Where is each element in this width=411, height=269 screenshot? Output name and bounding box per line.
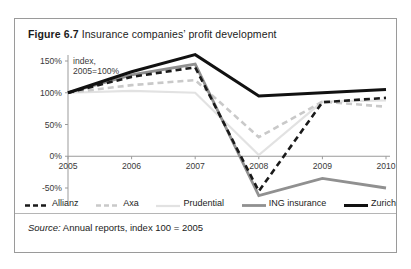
legend-swatch-allianz [25,194,49,212]
legend-item-prudential[interactable]: Prudential [156,194,224,212]
legend-swatch-prudential [156,194,180,212]
legend-swatch-ing [242,194,266,212]
legend-label-allianz: Allianz [52,198,79,208]
figure-title: Figure 6.7 Insurance companies’ profit d… [28,28,277,40]
legend-item-axa[interactable]: Axa [96,194,139,212]
source-note: Source: Annual reports, index 100 = 2005 [28,222,203,233]
legend-label-axa: Axa [123,198,139,208]
figure-title-text: Insurance companies’ profit development [82,28,277,40]
legend-swatch-zurich [344,194,368,212]
x-axis-tick-label: 2007 [186,161,205,171]
y-axis-title: index, [73,56,96,66]
legend-label-zurich: Zurich [371,198,396,208]
legend-label-prudential: Prudential [183,198,224,208]
y-axis-title-line2: 2005=100% [73,66,119,76]
y-axis-tick-label: 0% [50,151,63,161]
x-axis-tick-label: 2009 [313,161,332,171]
line-chart: 150%100%50%0%-50%20052006200720082009201… [15,49,398,209]
legend-label-ing: ING insurance [269,198,327,208]
y-axis-tick-label: -50% [42,183,62,193]
legend-item-ing[interactable]: ING insurance [242,194,327,212]
legend-item-allianz[interactable]: Allianz [25,194,79,212]
x-axis-tick-label: 2010 [376,161,395,171]
x-axis-tick-label: 2005 [58,161,77,171]
divider [15,213,396,214]
chart-legend: AllianzAxaPrudentialING insuranceZurich [25,195,396,211]
figure-container: Figure 6.7 Insurance companies’ profit d… [14,18,397,253]
y-axis-tick-label: 100% [40,88,62,98]
source-label: Source: [28,222,61,233]
chart-plot-area: 150%100%50%0%-50%20052006200720082009201… [15,49,398,209]
legend-item-zurich[interactable]: Zurich [344,194,396,212]
legend-swatch-axa [96,194,120,212]
source-text: Annual reports, index 100 = 2005 [61,222,203,233]
x-axis-tick-label: 2006 [122,161,141,171]
y-axis-tick-label: 50% [45,120,63,130]
figure-number: Figure 6.7 [28,28,79,40]
x-axis-tick-label: 2008 [249,161,268,171]
y-axis-tick-label: 150% [40,56,62,66]
